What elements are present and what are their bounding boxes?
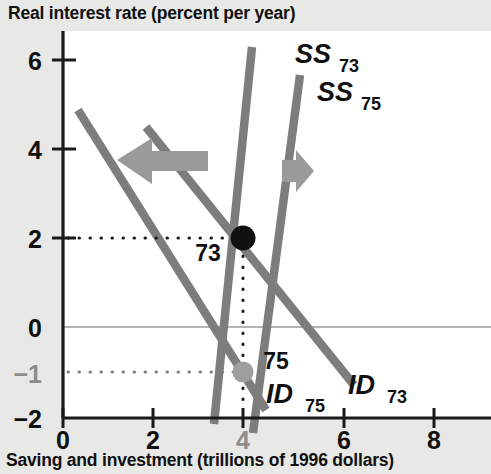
- curve-label-ss-73-sub: 73: [339, 56, 359, 76]
- y-tick-label-6: 6: [28, 47, 42, 75]
- point-label-75: 75: [263, 348, 289, 374]
- x-tick-label-8: 8: [427, 426, 441, 454]
- curve-label-ss-75-text: SS: [317, 77, 353, 107]
- point-label-73: 73: [195, 240, 221, 266]
- y-tick-labels: 6 4 2 0 −1 −2: [13, 47, 42, 433]
- x-axis-title: Saving and investment (trillions of 1996…: [6, 450, 394, 471]
- curve-label-ss-73-text: SS: [295, 39, 331, 69]
- y-tick-label-minus-2: −2: [13, 405, 42, 433]
- curve-label-id-75-sub: 75: [305, 396, 325, 416]
- curve-label-id-73-sub: 73: [387, 387, 407, 407]
- y-tick-label-2: 2: [28, 225, 42, 253]
- figure-container: Real interest rate (percent per year): [0, 0, 491, 474]
- curve-label-ss-75-sub: 75: [361, 94, 381, 114]
- curve-label-id-75-text: ID: [266, 379, 293, 409]
- y-tick-label-minus-1: −1: [13, 360, 42, 388]
- y-tick-label-0: 0: [28, 314, 42, 342]
- y-tick-label-4: 4: [28, 136, 42, 164]
- y-axis-title: Real interest rate (percent per year): [8, 3, 295, 24]
- chart-svg: 6 4 2 0 −1 −2 0 2 4 6 8 SS 73 SS 75 ID: [0, 0, 491, 474]
- equilibrium-point-73[interactable]: [231, 226, 256, 251]
- equilibrium-point-75[interactable]: [233, 362, 254, 383]
- curve-label-id-73-text: ID: [348, 370, 375, 400]
